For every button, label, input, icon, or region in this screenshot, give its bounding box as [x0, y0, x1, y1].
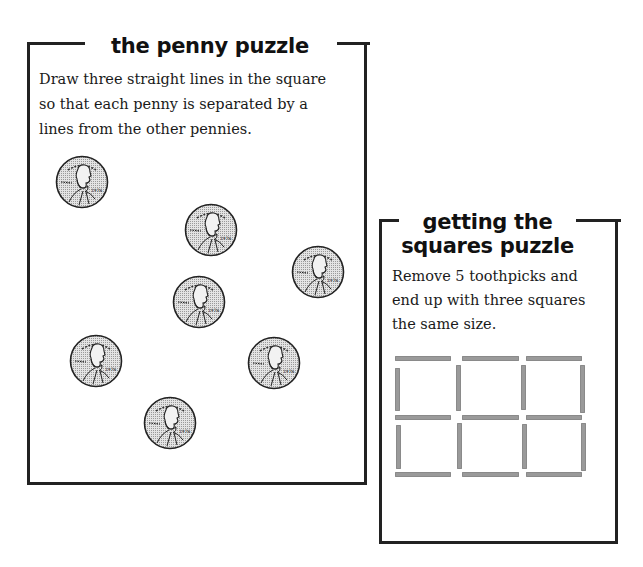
- panel-top-border-right: [337, 42, 370, 45]
- instruction-line: lines from the other pennies.: [39, 117, 326, 142]
- panel-top-border-left: [27, 42, 85, 45]
- penny-coin-icon: 1976: [69, 334, 123, 388]
- penny-puzzle-instructions: Draw three straight lines in the square …: [39, 67, 326, 142]
- toothpick-vertical: [396, 425, 401, 469]
- toothpick-horizontal: [526, 415, 582, 420]
- panel-top-border-right: [576, 219, 621, 222]
- toothpick-horizontal: [395, 356, 451, 361]
- toothpick-vertical: [580, 365, 585, 413]
- svg-text:1976: 1976: [220, 236, 232, 241]
- toothpick-horizontal: [462, 356, 519, 361]
- svg-text:1976: 1976: [105, 367, 117, 372]
- title-line-2: squares puzzle: [400, 234, 575, 258]
- toothpick-vertical: [395, 368, 400, 411]
- squares-puzzle-title: getting the squares puzzle: [400, 210, 575, 258]
- instruction-line: so that each penny is separated by a: [39, 92, 326, 117]
- instruction-line: Draw three straight lines in the square: [39, 67, 326, 92]
- squares-puzzle-instructions: Remove 5 toothpicks and end up with thre…: [392, 264, 585, 336]
- toothpick-vertical: [457, 423, 462, 469]
- svg-text:1976: 1976: [91, 188, 103, 193]
- penny-coin-icon: 1976: [172, 275, 226, 329]
- toothpick-vertical: [521, 365, 526, 410]
- penny-coin-icon: 1976: [291, 245, 345, 299]
- toothpick-horizontal: [395, 415, 451, 420]
- penny-coin-icon: 1976: [55, 155, 109, 209]
- toothpick-horizontal: [462, 472, 519, 477]
- svg-text:1976: 1976: [283, 369, 295, 374]
- toothpick-vertical: [522, 424, 527, 469]
- svg-text:1976: 1976: [327, 278, 339, 283]
- panel-top-border-left: [379, 219, 399, 222]
- toothpick-horizontal: [462, 415, 519, 420]
- instruction-line: Remove 5 toothpicks and: [392, 264, 585, 288]
- penny-coin-icon: 1976: [247, 336, 301, 390]
- toothpick-horizontal: [526, 472, 582, 477]
- penny-coin-icon: 1976: [143, 396, 197, 450]
- toothpick-vertical: [456, 365, 461, 411]
- toothpick-horizontal: [395, 472, 451, 477]
- squares-puzzle-panel: getting the squares puzzle Remove 5 toot…: [379, 222, 618, 544]
- penny-puzzle-title: the penny puzzle: [90, 34, 330, 58]
- toothpick-horizontal: [526, 356, 582, 361]
- penny-puzzle-panel: the penny puzzle Draw three straight lin…: [27, 45, 367, 485]
- toothpick-vertical: [581, 423, 586, 471]
- penny-coin-icon: 1976: [184, 203, 238, 257]
- svg-text:1976: 1976: [208, 308, 220, 313]
- title-line-1: getting the: [400, 210, 575, 234]
- svg-text:1976: 1976: [179, 429, 191, 434]
- instruction-line: end up with three squares: [392, 288, 585, 312]
- instruction-line: the same size.: [392, 312, 585, 336]
